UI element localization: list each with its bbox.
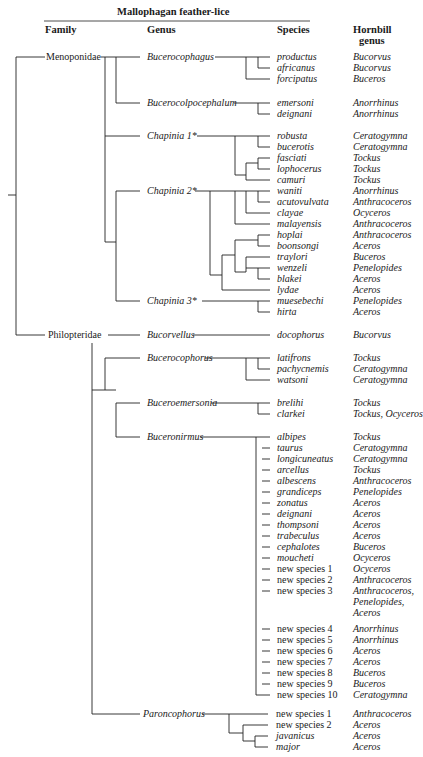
host-genus-label: Buceros: [353, 541, 385, 552]
species-label: pachycnemis: [277, 363, 329, 374]
species-label: latifrons: [277, 352, 311, 363]
species-label: camuri: [277, 174, 305, 185]
species-label: acutovulvata: [277, 196, 329, 207]
species-label: new species 8: [277, 667, 333, 678]
species-label: boonsongi: [277, 240, 319, 251]
host-genus-label: Buceros: [353, 73, 385, 84]
species-label: africanus: [277, 62, 315, 73]
header-hornbill-genus-1: Hornbill: [353, 24, 392, 35]
species-label: moucheti: [277, 552, 314, 563]
header-hornbill-genus-2: genus: [359, 35, 385, 46]
figure-title: Mallophagan feather-lice: [117, 6, 229, 17]
host-genus-label: Ceratogymna: [353, 689, 407, 700]
species-label: blakei: [277, 273, 301, 284]
species-label: major: [276, 741, 300, 752]
host-genus-label: Aceros: [353, 656, 380, 667]
host-genus-label: Tockus: [353, 163, 380, 174]
family-label: Philopteridae: [48, 329, 101, 340]
host-genus-label: Aceros: [353, 530, 380, 541]
host-genus-label: Anorrhinus: [353, 185, 398, 196]
species-label: cephalotes: [277, 541, 320, 552]
species-label: new species 5: [277, 634, 333, 645]
host-genus-label: Buceros: [353, 678, 385, 689]
species-label: javanicus: [276, 730, 314, 741]
host-genus-label: Aceros: [353, 730, 380, 741]
host-genus-label: Anorrhinus: [353, 108, 398, 119]
species-label: taurus: [277, 442, 303, 453]
species-label: clayae: [277, 207, 303, 218]
host-genus-label: Penelopides: [353, 262, 402, 273]
species-label: zonatus: [277, 497, 308, 508]
host-genus-label: Penelopides,: [353, 596, 404, 607]
species-label: new species 9: [277, 678, 333, 689]
host-genus-label: Penelopides: [353, 295, 402, 306]
host-genus-label: Tockus: [353, 152, 380, 163]
species-label: brelihi: [277, 397, 303, 408]
species-label: robusta: [277, 130, 307, 141]
genus-label: Bucorvellus: [147, 329, 195, 340]
species-label: deignani: [277, 508, 312, 519]
host-genus-label: Anorrhinus: [353, 97, 398, 108]
genus-label: Chapinia 1*: [147, 130, 197, 141]
species-label: lydae: [277, 284, 299, 295]
host-genus-label: Aceros: [353, 719, 380, 730]
species-label: new species 3: [277, 585, 333, 596]
species-label: new species 4: [277, 623, 333, 634]
host-genus-label: Anthracoceros: [353, 196, 412, 207]
species-label: new species 2: [277, 574, 333, 585]
species-label: lophocerus: [277, 163, 321, 174]
host-genus-label: Anthracoceros: [353, 218, 412, 229]
host-genus-label: Tockus, Ocyceros: [353, 408, 423, 419]
host-genus-label: Aceros: [353, 519, 380, 530]
species-label: waniti: [277, 185, 302, 196]
header-species: Species: [277, 24, 310, 35]
species-label: new species 1: [277, 563, 333, 574]
host-genus-label: Bucorvus: [353, 329, 391, 340]
species-label: new species 1: [276, 708, 332, 719]
species-label: longicuneatus: [277, 453, 333, 464]
host-genus-label: Ceratogymna: [353, 442, 407, 453]
species-label: hirta: [277, 306, 296, 317]
host-genus-label: Ceratogymna: [353, 363, 407, 374]
host-genus-label: Ceratogymna: [353, 141, 407, 152]
genus-label: Chapinia 2*: [147, 185, 197, 196]
species-label: albipes: [277, 431, 306, 442]
species-label: watsoni: [277, 374, 308, 385]
species-label: arcellus: [277, 464, 309, 475]
host-genus-label: Anthracoceros,: [353, 585, 414, 596]
species-label: new species 10: [277, 689, 338, 700]
species-label: muesebechi: [277, 295, 324, 306]
host-genus-label: Anthracoceros: [353, 574, 412, 585]
host-genus-label: Aceros: [353, 497, 380, 508]
host-genus-label: Tockus: [353, 174, 380, 185]
host-genus-label: Aceros: [353, 284, 380, 295]
header-family: Family: [45, 24, 77, 35]
species-label: new species 6: [277, 645, 333, 656]
host-genus-label: Anthracoceros: [353, 229, 412, 240]
species-label: grandiceps: [277, 486, 321, 497]
host-genus-label: Ocyceros: [353, 563, 390, 574]
host-genus-label: Ocyceros: [353, 207, 390, 218]
species-label: new species 7: [277, 656, 333, 667]
species-label: forcipatus: [277, 73, 317, 84]
header-genus: Genus: [147, 24, 176, 35]
host-genus-label: Ceratogymna: [353, 453, 407, 464]
host-genus-label: Anthracoceros: [353, 708, 412, 719]
species-label: wenzeli: [277, 262, 307, 273]
species-label: new species 2: [276, 719, 332, 730]
host-genus-label: Ceratogymna: [353, 374, 407, 385]
host-genus-label: Tockus: [353, 352, 380, 363]
species-label: malayensis: [277, 218, 321, 229]
host-genus-label: Aceros: [353, 508, 380, 519]
species-label: hoplai: [277, 229, 303, 240]
genus-label: Buceronirmus: [147, 431, 203, 442]
host-genus-label: Aceros: [353, 741, 380, 752]
species-label: fasciati: [277, 152, 306, 163]
species-label: productus: [277, 51, 317, 62]
host-genus-label: Anorrhinus: [353, 634, 398, 645]
host-genus-label: Anthracoceros: [353, 475, 412, 486]
species-label: deignani: [277, 108, 312, 119]
host-genus-label: Buceros: [353, 667, 385, 678]
species-label: albescens: [277, 475, 316, 486]
species-label: trabeculus: [277, 530, 319, 541]
